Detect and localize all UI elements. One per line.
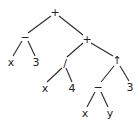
tree-nodes: + − x 3 + / x 4 ↑ − 3 x y bbox=[8, 6, 134, 120]
tree-edge bbox=[66, 68, 72, 82]
node-power: ↑ bbox=[112, 54, 121, 67]
expression-tree: + − x 3 + / x 4 ↑ − 3 x y bbox=[0, 0, 140, 127]
tree-edge bbox=[101, 92, 108, 107]
tree-edge bbox=[59, 16, 83, 35]
node-4: 4 bbox=[69, 82, 76, 95]
tree-edge bbox=[91, 43, 113, 56]
node-root-plus: + bbox=[50, 6, 59, 19]
node-3-exponent: 3 bbox=[127, 81, 134, 94]
node-y: y bbox=[107, 107, 114, 120]
node-x-inner: x bbox=[82, 107, 89, 120]
node-x-divide: x bbox=[42, 82, 49, 95]
tree-edge bbox=[28, 16, 51, 33]
node-divide: / bbox=[63, 57, 67, 70]
tree-edge bbox=[120, 66, 129, 81]
tree-edge bbox=[47, 68, 62, 82]
tree-edge bbox=[87, 92, 95, 107]
node-minus-inner: − bbox=[93, 81, 102, 94]
node-x-left: x bbox=[8, 56, 15, 69]
tree-edge bbox=[67, 43, 83, 57]
tree-edge bbox=[101, 66, 114, 82]
node-minus-left: − bbox=[20, 31, 29, 44]
node-plus-right: + bbox=[82, 33, 91, 46]
node-3-left: 3 bbox=[33, 56, 40, 69]
